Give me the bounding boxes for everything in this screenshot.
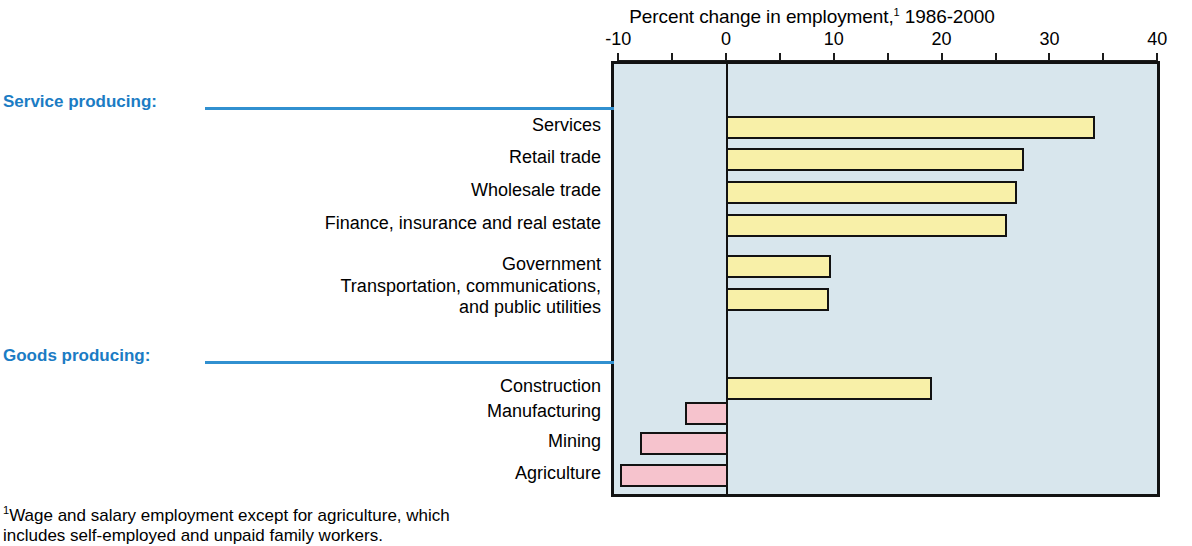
category-label: Agriculture [0,463,601,484]
x-axis-tick-label: 40 [1147,30,1167,48]
bar-transportation-communications [726,288,829,311]
group-heading-goods: Goods producing: [3,346,150,366]
bar-mining [640,432,728,455]
group-rule-service [205,107,614,110]
x-axis-tick-label: 0 [721,30,731,48]
group-rule-goods [205,361,614,364]
bar-retail-trade [726,148,1024,171]
footnote-line-1: Wage and salary employment except for ag… [9,506,450,525]
category-label: Wholesale trade [0,180,601,201]
category-label: Services [0,115,601,136]
chart-title-text: Percent change in employment, [629,6,893,27]
category-label: Government [0,254,601,275]
category-label: Transportation, communications,and publi… [0,276,601,318]
x-axis-tick-label: 20 [932,30,952,48]
category-label-line-2: and public utilities [0,297,601,318]
group-heading-service: Service producing: [3,92,157,112]
footnote-line-2: includes self-employed and unpaid family… [3,526,383,545]
bar-finance-insurance-and-real-estate [726,214,1007,237]
category-label: Mining [0,431,601,452]
chart-title-period: 1986-2000 [900,6,995,27]
bar-manufacturing [685,402,728,425]
bar-agriculture [620,464,728,487]
x-axis-tick-label: -10 [605,30,631,48]
bar-wholesale-trade [726,181,1017,204]
plot-area [611,61,1160,497]
footnote: 1Wage and salary employment except for a… [3,500,623,546]
x-axis-tick-label: 30 [1039,30,1059,48]
bar-government [726,255,831,278]
category-label: Construction [0,376,601,397]
bar-services [726,116,1095,139]
bar-construction [726,377,932,400]
category-label: Retail trade [0,147,601,168]
category-label: Finance, insurance and real estate [0,213,601,234]
category-label: Manufacturing [0,401,601,422]
chart-title: Percent change in employment,1 1986-2000 [0,6,1192,28]
x-axis-tick-labels: -10010203040 [0,30,1192,52]
category-label-line-1: Transportation, communications, [0,276,601,297]
x-axis-tick-label: 10 [824,30,844,48]
